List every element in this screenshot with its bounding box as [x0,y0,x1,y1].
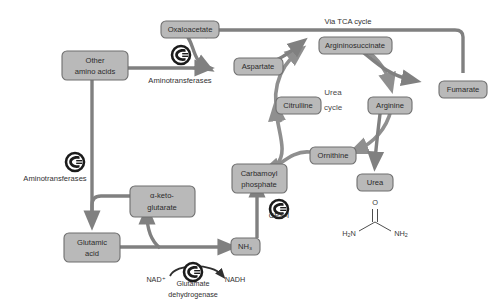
label-glutamate-dehydrogenase-line1: Glutamate [176,279,209,288]
node-box-rect [439,81,487,98]
label-via-tca-cycle: Via TCA cycle [325,17,372,26]
node-other-amino-acids[interactable]: Other amino acids [62,51,128,80]
node-glutamic-acid[interactable]: Glutamic acid [64,233,120,262]
node-nh3[interactable]: NH₃ [231,238,260,255]
label-aminotransferases-top: Aminotransferases [148,76,212,85]
label-cps-i: CPS-I [269,211,289,220]
urea-cycle-diagram: Urea cycle Other amino acids Oxaloacetat… [0,0,498,304]
node-carbamoyl-phosphate[interactable]: Carbamoyl phosphate [232,164,287,193]
node-box-rect [276,97,321,114]
node-ornithine[interactable]: Ornithine [310,147,356,164]
urea-cycle-center-label-line2: cycle [324,103,343,112]
enzyme-aminotransferases-left-icon [66,153,84,171]
node-box-rect [368,97,412,114]
node-aspartate[interactable]: Aspartate [234,58,283,75]
urea-left-amine-label: H2N [342,229,356,238]
arrow-arginine-to-ornithine [357,110,391,150]
urea-bond-left-amine [359,222,375,231]
urea-cycle-center-label-line1: Urea [324,88,342,97]
node-fumarate[interactable]: Fumarate [439,81,487,98]
diagram-canvas: Urea cycle Other amino acids Oxaloacetat… [0,0,498,304]
node-box-rect [231,238,260,255]
node-box-rect [62,51,128,80]
urea-right-amine-label: NH2 [394,229,408,238]
urea-oxygen-label: O [372,198,378,207]
arrow-glutamic-acid-to-ketoglutarate [147,214,160,248]
node-alpha-ketoglutarate[interactable]: α-keto- glutarate [130,186,195,217]
node-box-rect [234,58,283,75]
urea-molecular-structure: O H2N NH2 [342,198,408,238]
label-nad-plus: NAD⁺ [146,275,165,284]
node-oxaloacetate[interactable]: Oxaloacetate [161,21,219,38]
node-box-rect [310,147,356,164]
node-box-rect [161,21,219,38]
label-nadh: NADH [225,275,245,284]
label-aminotransferases-left: Aminotransferases [23,174,87,183]
node-box-rect [357,174,393,191]
node-arginine[interactable]: Arginine [368,97,412,114]
node-box-rect [64,233,120,262]
label-glutamate-dehydrogenase-line2: dehydrogenase [168,290,218,299]
node-box-rect [130,186,195,217]
node-argininosuccinate[interactable]: Argininosuccinate [319,37,392,54]
urea-bond-right-amine [375,222,391,231]
node-box-rect [319,37,392,54]
enzyme-aminotransferases-top-icon [172,46,190,64]
arrow-ketoglutarate-to-branch [92,196,130,214]
node-urea[interactable]: Urea [357,174,393,191]
node-citrulline[interactable]: Citrulline [276,97,321,114]
node-box-rect [232,164,287,193]
